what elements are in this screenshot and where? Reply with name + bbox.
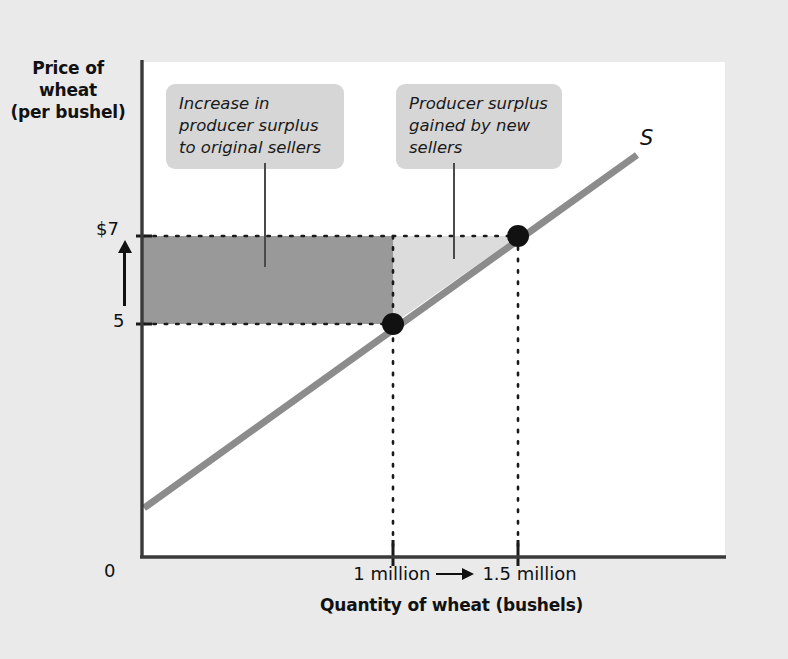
- x-axis-title: Quantity of wheat (bushels): [320, 595, 750, 615]
- quantity-labels: 1 million 1.5 million: [300, 563, 630, 584]
- price-label-high: $7: [96, 218, 119, 239]
- price-increase-arrow-icon: [118, 240, 132, 306]
- y-axis-title-line-2: wheat: [0, 80, 136, 102]
- callout-new-sellers: Producer surplus gained by new sellers: [396, 84, 562, 169]
- origin-label: 0: [104, 560, 115, 581]
- quantity-increase-arrow-icon: [436, 567, 476, 581]
- quantity-label-low: 1 million: [353, 563, 430, 584]
- y-axis-title-line-1: Price of: [0, 58, 136, 80]
- supply-curve-figure: Price of wheat (per bushel) $7 5 0 1 mil…: [0, 0, 788, 659]
- quantity-label-high: 1.5 million: [482, 563, 576, 584]
- point-original-equilibrium: [382, 313, 404, 335]
- point-new-equilibrium: [507, 225, 529, 247]
- callout-new-sellers-leader-line: [453, 163, 455, 259]
- y-axis-title: Price of wheat (per bushel): [0, 58, 136, 123]
- callout-original-sellers-leader-line: [264, 163, 266, 267]
- y-axis-title-line-3: (per bushel): [0, 102, 136, 124]
- region-original-sellers: [142, 236, 393, 324]
- supply-curve-label: S: [640, 126, 653, 150]
- callout-original-sellers: Increase in producer surplus to original…: [166, 84, 344, 169]
- region-new-sellers: [393, 236, 518, 324]
- price-label-low: 5: [113, 310, 124, 331]
